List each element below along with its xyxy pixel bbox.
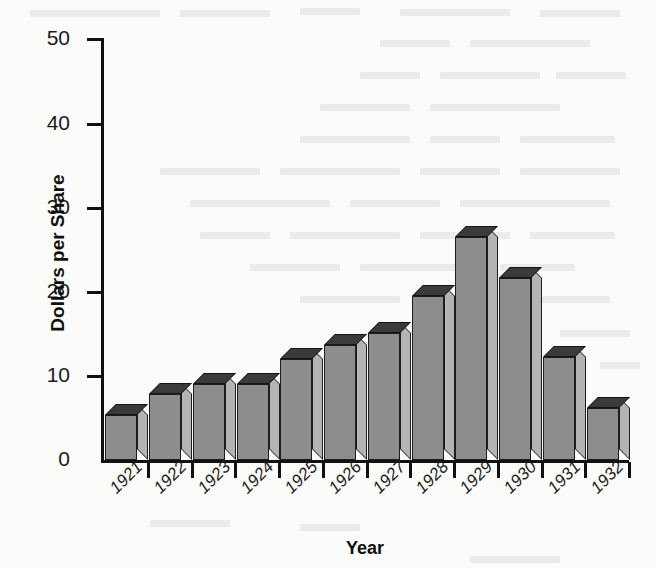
x-axis-tick-1928 [453, 462, 456, 478]
bar-top-face-1930 [499, 267, 542, 278]
bar-top-face-1926 [324, 334, 367, 345]
bar-side-face-1929 [487, 226, 498, 460]
bar-front-face-1922 [149, 394, 181, 460]
bar-top-face-1925 [280, 348, 323, 359]
bar-side-face-1932 [619, 397, 630, 460]
bar-side-face-1922 [181, 383, 192, 460]
y-axis-title: Dollars per Share [47, 133, 69, 373]
x-axis-title: Year [101, 538, 629, 559]
bar-side-face-1926 [356, 334, 367, 460]
bar-side-face-1927 [400, 322, 411, 460]
bar-top-face-1921 [105, 404, 148, 415]
bar-front-face-1932 [587, 408, 619, 460]
x-axis-label-1921: 1921 [106, 457, 147, 498]
y-axis-label-0: 0 [10, 447, 70, 471]
y-axis-tick-50 [87, 38, 104, 41]
x-axis-tick-1932 [628, 462, 631, 478]
chart-page: 50 40 30 20 10 0 Dollars per Share 19211… [0, 0, 656, 568]
bar-side-face-1930 [531, 267, 542, 460]
bar-top-face-1932 [587, 397, 630, 408]
bar-front-face-1928 [412, 296, 444, 460]
bar-side-face-1924 [269, 373, 280, 460]
x-axis-label-1930: 1930 [500, 457, 541, 498]
bar-front-face-1925 [280, 359, 312, 460]
x-axis-label-1923: 1923 [194, 457, 235, 498]
bar-top-face-1929 [455, 226, 498, 237]
bar-top-face-1924 [237, 373, 280, 384]
x-axis-label-1928: 1928 [412, 457, 453, 498]
bar-front-face-1930 [499, 278, 531, 460]
x-axis-label-1922: 1922 [150, 457, 191, 498]
y-axis-tick-10 [87, 375, 104, 378]
bar-side-face-1931 [575, 346, 586, 460]
bar-top-face-1931 [543, 346, 586, 357]
x-axis-tick-1921 [147, 462, 150, 478]
x-axis-tick-1924 [278, 462, 281, 478]
x-axis-label-1925: 1925 [281, 457, 322, 498]
x-axis-tick-1931 [584, 462, 587, 478]
x-axis-label-1929: 1929 [456, 457, 497, 498]
x-axis-label-1927: 1927 [369, 457, 410, 498]
bar-top-face-1922 [149, 383, 192, 394]
y-axis-tick-20 [87, 291, 104, 294]
x-axis-tick-1926 [366, 462, 369, 478]
x-axis-label-1926: 1926 [325, 457, 366, 498]
bar-front-face-1924 [237, 384, 269, 460]
bar-side-face-1928 [444, 285, 455, 460]
x-axis-tick-1930 [541, 462, 544, 478]
x-axis-label-1924: 1924 [237, 457, 278, 498]
bar-front-face-1931 [543, 357, 575, 460]
x-axis-label-1932: 1932 [587, 457, 628, 498]
bar-front-face-1929 [455, 237, 487, 460]
x-axis-tick-1922 [191, 462, 194, 478]
x-axis-tick-1925 [322, 462, 325, 478]
x-axis-label-1931: 1931 [544, 457, 585, 498]
bar-side-face-1921 [137, 404, 148, 460]
bar-top-face-1928 [412, 285, 455, 296]
bar-front-face-1923 [193, 384, 225, 460]
bar-side-face-1925 [312, 348, 323, 460]
x-axis-tick-1929 [497, 462, 500, 478]
bar-top-face-1923 [193, 373, 236, 384]
bar-front-face-1927 [368, 333, 400, 460]
plot-area: 50 40 30 20 10 0 Dollars per Share 19211… [0, 0, 656, 568]
y-axis-line [101, 39, 104, 463]
y-axis-label-50: 50 [10, 26, 70, 50]
y-axis-tick-40 [87, 123, 104, 126]
y-axis-tick-30 [87, 207, 104, 210]
bar-front-face-1921 [105, 415, 137, 460]
y-axis-label-40: 40 [10, 111, 70, 135]
bar-front-face-1926 [324, 345, 356, 460]
bar-top-face-1927 [368, 322, 411, 333]
bar-side-face-1923 [225, 373, 236, 460]
